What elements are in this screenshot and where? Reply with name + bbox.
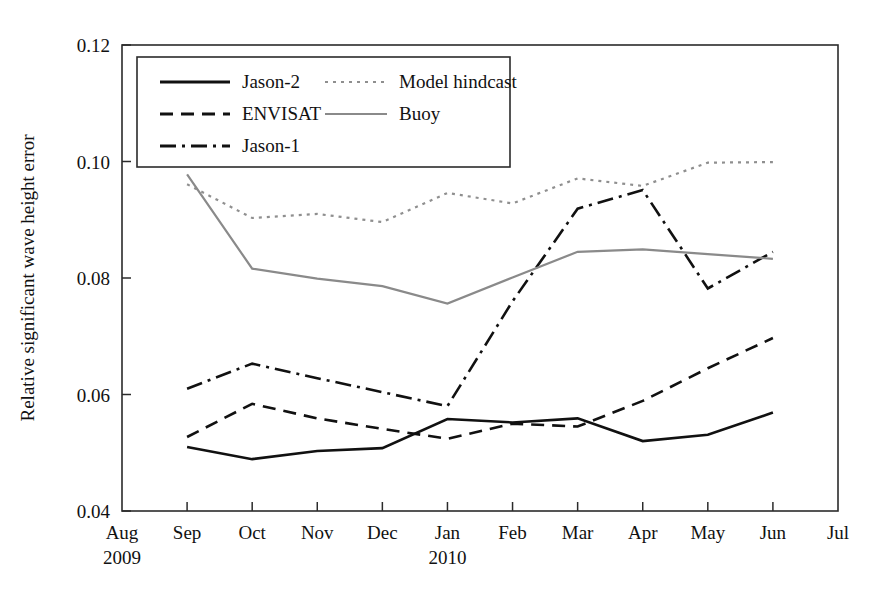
y-tick-label: 0.04 — [77, 501, 111, 522]
y-tick-label: 0.12 — [77, 35, 110, 56]
x-tick-label: Oct — [238, 522, 266, 543]
line-chart: 0.040.060.080.100.12 AugSepOctNovDecJanF… — [0, 0, 891, 595]
x-year-label: 2010 — [428, 547, 466, 568]
x-tick-label: Aug — [106, 522, 139, 543]
x-axis-year-labels: 20092010 — [103, 547, 466, 568]
series-line-envisat — [187, 338, 773, 439]
x-tick-label: Feb — [498, 522, 527, 543]
legend-label-model-hindcast: Model hindcast — [399, 71, 517, 92]
y-axis-ticks — [122, 45, 131, 511]
x-tick-label: Apr — [628, 522, 658, 543]
x-tick-label: Dec — [367, 522, 398, 543]
x-tick-label: Jan — [435, 522, 461, 543]
chart-legend: Jason-2Model hindcastENVISATBuoyJason-1 — [137, 57, 517, 167]
y-tick-label: 0.06 — [77, 385, 110, 406]
series-line-model-hindcast — [187, 162, 773, 222]
x-axis-ticks — [187, 502, 773, 511]
legend-label-buoy: Buoy — [399, 103, 441, 124]
x-axis-tick-labels: AugSepOctNovDecJanFebMarAprMayJunJul — [106, 522, 849, 543]
chart-figure: 0.040.060.080.100.12 AugSepOctNovDecJanF… — [0, 0, 891, 595]
y-axis-tick-labels: 0.040.060.080.100.12 — [77, 35, 111, 522]
x-tick-label: Mar — [562, 522, 594, 543]
x-tick-label: Jul — [827, 522, 849, 543]
series-line-jason-1 — [187, 190, 773, 406]
legend-label-jason-1: Jason-1 — [242, 135, 300, 156]
series-line-jason-2 — [187, 413, 773, 460]
series-group — [187, 162, 773, 459]
x-tick-label: Sep — [173, 522, 202, 543]
series-line-buoy — [187, 174, 773, 303]
x-year-label: 2009 — [103, 547, 141, 568]
y-tick-label: 0.08 — [77, 268, 110, 289]
x-tick-label: Nov — [301, 522, 334, 543]
x-tick-label: May — [690, 522, 725, 543]
y-axis-title: Relative significant wave height error — [17, 134, 38, 422]
x-tick-label: Jun — [760, 522, 787, 543]
y-tick-label: 0.10 — [77, 152, 110, 173]
legend-label-jason-2: Jason-2 — [242, 71, 300, 92]
legend-label-envisat: ENVISAT — [242, 103, 322, 124]
